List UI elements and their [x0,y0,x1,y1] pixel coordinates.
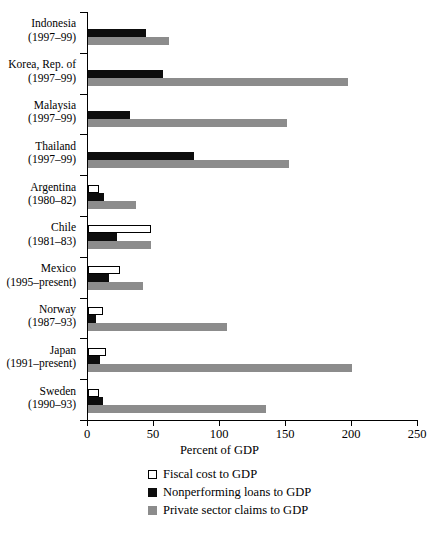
bar-nonperforming-loans [88,397,103,405]
bar-nonperforming-loans [88,315,96,323]
bar-chart: 050100150200250 Indonesia(1997–99)Korea,… [0,0,439,539]
bar-private-sector-claims [88,160,289,168]
category-label: Chile(1981–83) [0,221,76,248]
bar-private-sector-claims [88,364,352,372]
category-country: Norway [0,303,76,317]
bar-fiscal-cost [88,185,99,193]
category-country: Malaysia [0,99,76,113]
bar-fiscal-cost [88,389,99,397]
x-axis-title: Percent of GDP [0,443,439,458]
x-tick-250 [417,420,418,426]
category-period: (1997–99) [0,31,76,45]
legend-swatch-icon [148,506,157,515]
category-country: Indonesia [0,17,76,31]
bar-group: Norway(1987–93) [0,298,439,339]
legend-label: Private sector claims to GDP [163,503,308,518]
bar-fiscal-cost [88,225,151,233]
x-tick-label-0: 0 [57,427,117,442]
x-tick-50 [153,420,154,426]
bar-group: Indonesia(1997–99) [0,12,439,53]
category-period: (1997–99) [0,112,76,126]
bar-group: Sweden(1990–93) [0,379,439,420]
bar-group: Korea, Rep. of(1997–99) [0,53,439,94]
bar-nonperforming-loans [88,111,130,119]
bar-fiscal-cost [88,307,103,315]
category-period: (1987–93) [0,316,76,330]
bar-nonperforming-loans [88,274,109,282]
bar-group: Mexico(1995–present) [0,257,439,298]
bar-private-sector-claims [88,201,136,209]
category-label: Norway(1987–93) [0,303,76,330]
bar-nonperforming-loans [88,152,194,160]
x-tick-100 [219,420,220,426]
category-country: Chile [0,221,76,235]
legend-swatch-icon [148,488,157,497]
legend-label: Nonperforming loans to GDP [163,485,311,500]
bar-private-sector-claims [88,282,143,290]
bar-fiscal-cost [88,348,106,356]
chart-legend: Fiscal cost to GDPNonperforming loans to… [148,466,428,520]
bar-nonperforming-loans [88,193,104,201]
bar-nonperforming-loans [88,356,100,364]
category-label: Indonesia(1997–99) [0,17,76,44]
category-period: (1981–83) [0,235,76,249]
category-label: Sweden(1990–93) [0,385,76,412]
bar-group: Chile(1981–83) [0,216,439,257]
bar-group: Malaysia(1997–99) [0,94,439,135]
bar-group: Thailand(1997–99) [0,134,439,175]
x-tick-label-150: 150 [255,427,315,442]
category-period: (1997–99) [0,72,76,86]
category-country: Thailand [0,140,76,154]
legend-item: Fiscal cost to GDP [148,466,428,483]
bar-private-sector-claims [88,241,151,249]
category-country: Japan [0,344,76,358]
legend-item: Private sector claims to GDP [148,502,428,519]
x-axis-line [87,420,418,421]
category-label: Korea, Rep. of(1997–99) [0,58,76,85]
category-label: Japan(1991–present) [0,344,76,371]
category-label: Mexico(1995–present) [0,262,76,289]
legend-item: Nonperforming loans to GDP [148,484,428,501]
bar-private-sector-claims [88,37,169,45]
category-country: Sweden [0,385,76,399]
category-country: Korea, Rep. of [0,58,76,72]
bar-private-sector-claims [88,78,348,86]
bar-nonperforming-loans [88,233,117,241]
x-tick-label-200: 200 [321,427,381,442]
bar-nonperforming-loans [88,29,146,37]
bar-private-sector-claims [88,323,227,331]
x-tick-label-250: 250 [387,427,439,442]
category-label: Argentina(1980–82) [0,181,76,208]
legend-label: Fiscal cost to GDP [163,467,257,482]
category-country: Mexico [0,262,76,276]
category-period: (1995–present) [0,276,76,290]
bar-fiscal-cost [88,266,120,274]
category-period: (1991–present) [0,357,76,371]
category-period: (1990–93) [0,398,76,412]
x-tick-200 [351,420,352,426]
category-label: Thailand(1997–99) [0,140,76,167]
legend-swatch-icon [148,470,157,479]
bar-group: Japan(1991–present) [0,338,439,379]
y-tick-10 [80,420,88,421]
category-label: Malaysia(1997–99) [0,99,76,126]
category-period: (1997–99) [0,153,76,167]
bar-private-sector-claims [88,119,287,127]
category-period: (1980–82) [0,194,76,208]
bar-private-sector-claims [88,405,266,413]
category-country: Argentina [0,181,76,195]
bar-nonperforming-loans [88,70,163,78]
x-tick-150 [285,420,286,426]
x-tick-label-100: 100 [189,427,249,442]
bar-group: Argentina(1980–82) [0,175,439,216]
x-tick-label-50: 50 [123,427,183,442]
